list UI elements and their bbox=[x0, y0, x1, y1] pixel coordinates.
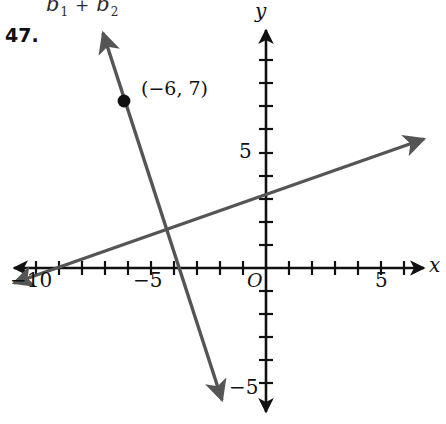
origin-label: O bbox=[247, 271, 263, 290]
x-tick-label-neg10: −10 bbox=[10, 270, 52, 290]
fragment-subscript-2: 2 bbox=[111, 5, 120, 19]
graph-figure: b1+b2 47. (−6, 7) y x O −10 −5 5 5 −5 bbox=[0, 0, 446, 424]
x-axis-label: x bbox=[429, 255, 440, 275]
y-tick-label-5: 5 bbox=[239, 141, 252, 161]
y-axis-label: y bbox=[255, 1, 266, 21]
coordinate-plane bbox=[0, 0, 446, 424]
y-axis bbox=[259, 30, 273, 412]
fragment-base-1: b bbox=[46, 0, 60, 16]
fragment-base-2: b bbox=[96, 0, 110, 16]
top-formula-fragment: b1+b2 bbox=[46, 0, 119, 18]
marked-point bbox=[118, 95, 131, 108]
fragment-subscript-1: 1 bbox=[60, 5, 69, 19]
y-tick-label-neg5: −5 bbox=[229, 377, 258, 397]
fragment-operator: + bbox=[69, 0, 96, 15]
point-coordinate-label: (−6, 7) bbox=[141, 79, 208, 98]
problem-number: 47. bbox=[5, 26, 39, 45]
x-tick-label-neg5: −5 bbox=[133, 270, 162, 290]
x-tick-label-5: 5 bbox=[375, 270, 388, 290]
